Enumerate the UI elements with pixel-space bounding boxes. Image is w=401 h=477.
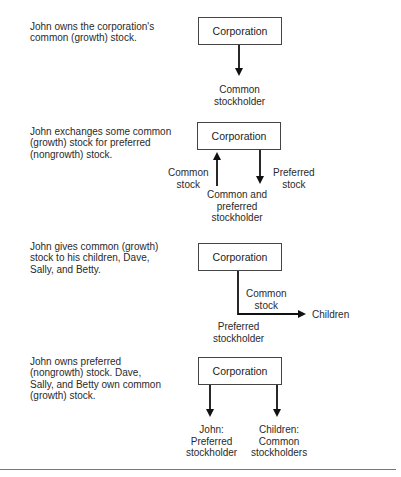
desc-line: (nongrowth) stock.: [30, 149, 180, 160]
desc-line: John owns preferred: [30, 356, 180, 367]
label-line: Children:: [251, 424, 307, 436]
label-line: stockholder: [213, 333, 264, 345]
corporation-box: Corporation: [198, 17, 282, 45]
john-preferred-stockholder-label: John: Preferred stockholder: [186, 424, 237, 459]
box-label: Corporation: [213, 365, 268, 377]
desc-line: John owns the corporation's: [30, 21, 180, 32]
label-line: Common: [246, 288, 287, 300]
arrows-layer: [0, 0, 401, 477]
desc-line: (growth) stock.: [30, 390, 180, 401]
label-line: preferred: [207, 201, 267, 213]
corporation-box: Corporation: [198, 357, 282, 385]
desc-line: (nongrowth) stock. Dave,: [30, 367, 180, 378]
children-common-stockholders-label: Children: Common stockholders: [251, 424, 307, 459]
label-line: stockholder: [186, 447, 237, 459]
label-line: Preferred: [213, 321, 264, 333]
common-stock-label: Common stock: [246, 288, 287, 311]
common-and-preferred-stockholder-label: Common and preferred stockholder: [207, 189, 267, 224]
scenario-4-description: John owns preferred (nongrowth) stock. D…: [30, 356, 180, 401]
desc-line: Sally, and Betty.: [30, 264, 180, 275]
corporation-box: Corporation: [198, 243, 282, 271]
bottom-divider: [0, 469, 396, 470]
label-line: stock: [273, 179, 315, 191]
desc-line: Sally, and Betty own common: [30, 379, 180, 390]
label-line: stockholder: [214, 96, 265, 108]
box-label: Corporation: [213, 25, 268, 37]
label-line: stock: [246, 300, 287, 312]
box-label: Corporation: [212, 130, 267, 142]
desc-line: John exchanges some common: [30, 126, 180, 137]
scenario-3-description: John gives common (growth) stock to his …: [30, 241, 180, 275]
label-line: stockholders: [251, 447, 307, 459]
label-line: Common: [251, 436, 307, 448]
desc-line: stock to his children, Dave,: [30, 252, 180, 263]
preferred-stock-label: Preferred stock: [273, 167, 315, 190]
label-line: Common: [214, 84, 265, 96]
children-label: Children: [312, 309, 349, 321]
box-label: Corporation: [213, 251, 268, 263]
label-line: Preferred: [186, 436, 237, 448]
label-line: John:: [186, 424, 237, 436]
common-stockholder-label: Common stockholder: [214, 84, 265, 107]
scenario-1-description: John owns the corporation's common (grow…: [30, 21, 180, 44]
label-line: stockholder: [207, 212, 267, 224]
corporation-box: Corporation: [197, 122, 281, 150]
label-line: Common: [168, 167, 209, 179]
preferred-stockholder-label: Preferred stockholder: [213, 321, 264, 344]
label-line: Children: [312, 309, 349, 320]
desc-line: John gives common (growth): [30, 241, 180, 252]
label-line: stock: [168, 179, 209, 191]
label-line: Preferred: [273, 167, 315, 179]
desc-line: (growth) stock for preferred: [30, 137, 180, 148]
desc-line: common (growth) stock.: [30, 32, 180, 43]
common-stock-label: Common stock: [168, 167, 209, 190]
label-line: Common and: [207, 189, 267, 201]
scenario-2-description: John exchanges some common (growth) stoc…: [30, 126, 180, 160]
